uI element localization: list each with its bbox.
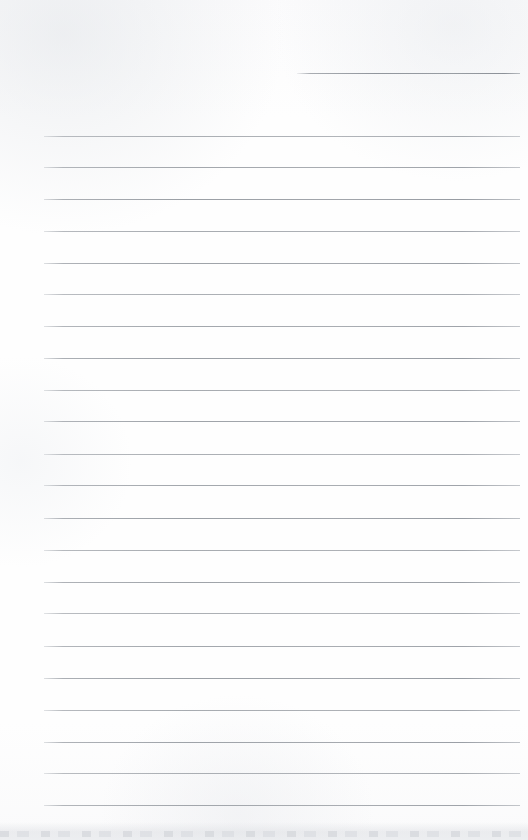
body-rule bbox=[44, 710, 520, 711]
body-rule bbox=[44, 358, 520, 359]
body-rule bbox=[44, 805, 520, 806]
body-rule bbox=[44, 263, 520, 264]
body-rule bbox=[44, 773, 520, 774]
body-rule bbox=[44, 136, 520, 137]
body-rule bbox=[44, 550, 520, 551]
body-rule bbox=[44, 454, 520, 455]
body-rule bbox=[44, 199, 520, 200]
body-rule bbox=[44, 167, 520, 168]
body-rule bbox=[44, 742, 520, 743]
ruled-lines-layer bbox=[0, 0, 528, 840]
body-rule bbox=[44, 231, 520, 232]
body-rule bbox=[44, 326, 520, 327]
body-rule bbox=[44, 646, 520, 647]
body-rule bbox=[44, 421, 520, 422]
body-rule bbox=[44, 613, 520, 614]
body-rule bbox=[44, 582, 520, 583]
body-rule bbox=[44, 678, 520, 679]
body-rule bbox=[44, 485, 520, 486]
body-rule bbox=[44, 294, 520, 295]
body-rule bbox=[44, 390, 520, 391]
scanned-page bbox=[0, 0, 528, 840]
body-rule bbox=[44, 518, 520, 519]
header-rule bbox=[297, 73, 520, 74]
